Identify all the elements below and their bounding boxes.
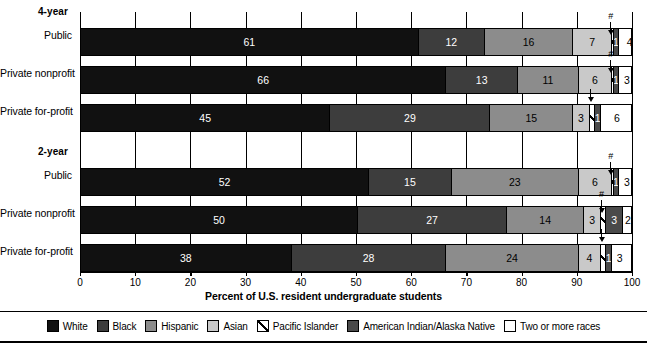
bar-segment-hispanic: 24 [445, 245, 577, 271]
bar-segment-two-or-more-races: 3 [618, 169, 632, 195]
row-label-2year-private-for-profit: Private for-profit [0, 245, 72, 257]
bar-segment-value: 12 [445, 37, 457, 48]
bar-segment-black: 29 [329, 105, 489, 131]
legend-item-hispanic[interactable]: Hispanic [145, 320, 198, 332]
x-tick-100 [632, 271, 633, 276]
group-header-4-year: 4-year [0, 6, 68, 17]
bar-segment-value: 15 [404, 177, 416, 188]
bar-segment-value: 38 [180, 253, 192, 264]
bar-segment-value: 2 [625, 215, 631, 226]
bar-row: 382824413 [80, 244, 632, 272]
x-tick-label-10: 10 [120, 277, 150, 288]
bar-segment-value: 50 [213, 215, 225, 226]
bar-segment-black: 12 [418, 29, 484, 55]
bar-segment-value: 14 [539, 215, 551, 226]
annotation-arrow-icon [610, 22, 611, 31]
x-tick-label-30: 30 [231, 277, 261, 288]
legend-swatch-american-indian-alaska-native [347, 320, 359, 332]
bar-segment-white: 38 [81, 245, 291, 271]
x-tick-label-70: 70 [451, 277, 481, 288]
bar-segment-white: 45 [81, 105, 329, 131]
legend-item-black[interactable]: Black [97, 320, 137, 332]
x-axis-title: Percent of U.S. resident undergraduate s… [0, 290, 647, 302]
legend-label: Black [113, 321, 137, 332]
bar-segment-value: 4 [627, 37, 632, 48]
x-tick-50 [356, 271, 357, 276]
bar-row: 502714332 [80, 206, 632, 234]
bar-segment-value: 13 [476, 75, 488, 86]
row-label-4year-private-nonprofit: Private nonprofit [0, 67, 72, 79]
bar-segment-value: 16 [523, 37, 535, 48]
bar-segment-value: 4 [586, 253, 592, 264]
x-tick-80 [522, 271, 523, 276]
bar-segment-value: 3 [617, 253, 623, 264]
row-label-2year-public: Public [0, 169, 72, 181]
bar-segment-white: 50 [81, 207, 357, 233]
bar-row: 661311613 [80, 66, 632, 94]
annotation-arrow-icon [610, 162, 611, 171]
bar-segment-value: 3 [578, 113, 584, 124]
bar-segment-two-or-more-races: 3 [618, 67, 632, 93]
bar-segment-value: 15 [526, 113, 538, 124]
legend: WhiteBlackHispanicAsianPacific IslanderA… [0, 314, 647, 338]
annotation-symbol: # [595, 190, 609, 199]
bar-segment-value: 61 [244, 37, 256, 48]
x-tick-70 [466, 271, 467, 276]
bar-segment-black: 28 [291, 245, 446, 271]
annotation-arrow-icon [601, 229, 602, 238]
annotation-symbol: # [604, 50, 618, 59]
pacific-islander-annotation: # [604, 12, 618, 31]
annotation-symbol: # [604, 12, 618, 21]
bar-segment-value: 24 [506, 253, 518, 264]
bar-segment-hispanic: 14 [506, 207, 583, 233]
legend-swatch-white [47, 320, 59, 332]
pacific-islander-annotation: # [604, 152, 618, 171]
bar-segment-black: 27 [357, 207, 506, 233]
legend-label: White [63, 321, 88, 332]
group-header-2-year: 2-year [0, 146, 68, 157]
bar-segment-white: 66 [81, 67, 445, 93]
bar-segment-value: 6 [592, 75, 598, 86]
bar-segment-black: 13 [445, 67, 517, 93]
row-label-2year-private-nonprofit: Private nonprofit [0, 207, 72, 219]
bar-segment-white: 52 [81, 169, 368, 195]
x-tick-20 [190, 271, 191, 276]
legend-divider-top [0, 311, 647, 312]
legend-swatch-black [97, 320, 109, 332]
legend-label: Two or more races [520, 321, 600, 332]
x-tick-60 [411, 271, 412, 276]
bar-segment-value: 45 [199, 113, 211, 124]
legend-item-asian[interactable]: Asian [207, 320, 247, 332]
bar-segment-black: 15 [368, 169, 451, 195]
bar-segment-value: 3 [624, 177, 630, 188]
row-label-4year-public: Public [0, 29, 72, 41]
pacific-islander-annotation [584, 88, 598, 98]
bar-segment-hispanic: 15 [489, 105, 572, 131]
legend-item-white[interactable]: White [47, 320, 88, 332]
x-tick-30 [246, 271, 247, 276]
annotation-symbol: # [604, 152, 618, 161]
bar-segment-value: 23 [509, 177, 521, 188]
bar-segment-value: 66 [257, 75, 269, 86]
legend-label: American Indian/Alaska Native [363, 321, 495, 332]
bar-segment-value: 27 [426, 215, 438, 226]
bar-segment-value: 29 [404, 113, 416, 124]
legend-item-pacific-islander[interactable]: Pacific Islander [257, 320, 338, 332]
bar-segment-two-or-more-races: 2 [622, 207, 632, 233]
bar-segment-hispanic: 23 [451, 169, 578, 195]
bar-segment-value: 7 [589, 37, 595, 48]
bar-segment-two-or-more-races: 4 [618, 29, 632, 55]
bar-segment-white: 61 [81, 29, 418, 55]
legend-swatch-asian [207, 320, 219, 332]
legend-item-two-or-more-races[interactable]: Two or more races [504, 320, 600, 332]
legend-swatch-pacific-islander [257, 320, 269, 332]
legend-swatch-hispanic [145, 320, 157, 332]
bar-row: 452915316 [80, 104, 632, 132]
x-tick-label-50: 50 [341, 277, 371, 288]
x-tick-90 [577, 271, 578, 276]
x-tick-10 [135, 271, 136, 276]
plot-area: 6112167146613116134529153165215236135027… [80, 12, 632, 271]
legend-item-american-indian-alaska-native[interactable]: American Indian/Alaska Native [347, 320, 495, 332]
bar-segment-value: 3 [624, 75, 630, 86]
